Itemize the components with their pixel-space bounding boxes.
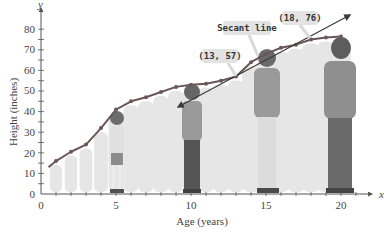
y-variable-label: y — [37, 0, 43, 10]
y-tick-40: 40 — [24, 105, 36, 117]
x-tick-20: 20 — [336, 199, 348, 211]
x-ticks — [56, 192, 356, 196]
x-tick-labels: 0 5 10 15 20 — [38, 199, 347, 211]
y-tick-60: 60 — [24, 64, 36, 76]
callout-point-13: (13, 57) — [198, 49, 241, 76]
y-tick-80: 80 — [24, 23, 36, 35]
x-variable-label: x — [378, 188, 384, 200]
y-tick-10: 10 — [24, 167, 36, 179]
y-tick-70: 70 — [24, 43, 36, 55]
y-tick-0: 0 — [30, 188, 36, 200]
y-tick-50: 50 — [24, 84, 36, 96]
callout-secant-text: Secant line — [217, 23, 277, 33]
x-axis-title: Age (years) — [176, 215, 228, 228]
callout-18-text: (18, 76) — [278, 13, 321, 23]
x-tick-10: 10 — [186, 199, 198, 211]
x-tick-15: 15 — [261, 199, 273, 211]
callout-13-text: (13, 57) — [198, 51, 241, 61]
y-tick-labels: 0 10 20 30 40 50 60 70 80 — [24, 23, 36, 200]
x-tick-5: 5 — [113, 199, 119, 211]
y-tick-30: 30 — [24, 126, 36, 138]
x-tick-0: 0 — [38, 199, 44, 211]
height-age-chart: 0 5 10 15 20 0 10 20 30 40 50 60 70 80 A… — [0, 0, 387, 232]
y-axis-title: Height (inches) — [7, 78, 20, 146]
y-tick-20: 20 — [24, 147, 36, 159]
